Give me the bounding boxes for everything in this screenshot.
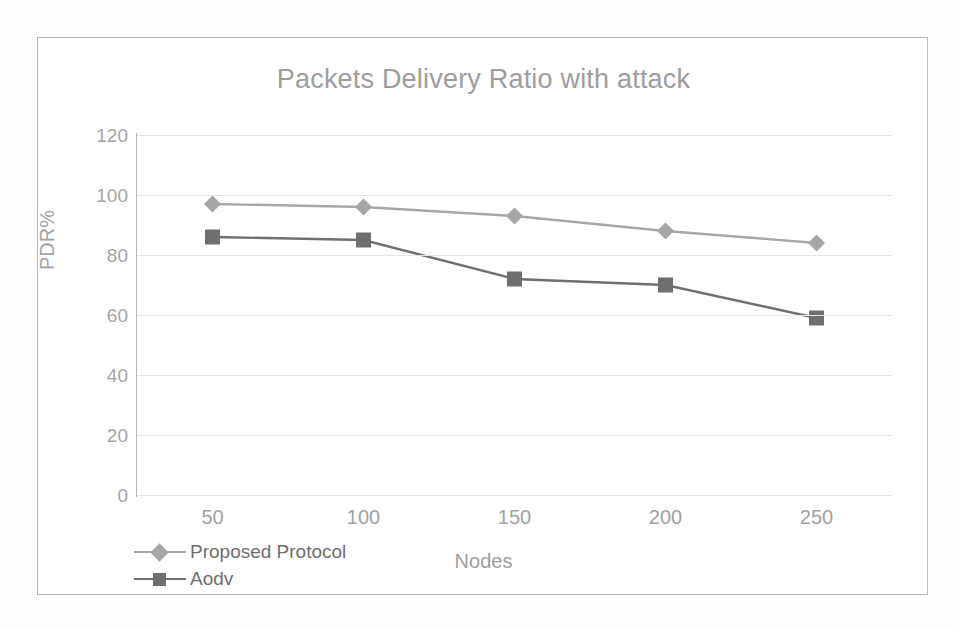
legend-square-marker-icon (134, 570, 186, 588)
data-point-marker (204, 196, 221, 213)
x-axis-tick-labels: 50100150200250 (137, 506, 892, 536)
gridline (137, 375, 892, 376)
data-point-marker (809, 311, 824, 326)
y-axis-tick-label: 100 (76, 186, 128, 205)
y-axis-title: PDR% (36, 210, 59, 270)
chart-title: Packets Delivery Ratio with attack (38, 64, 929, 95)
y-axis-tick-label: 60 (76, 306, 128, 325)
x-axis-tick-label: 250 (777, 506, 857, 529)
data-point-marker (658, 278, 673, 293)
legend-label: Proposed Protocol (186, 541, 346, 563)
data-point-marker (205, 230, 220, 245)
data-point-marker (355, 199, 372, 216)
gridline (137, 135, 892, 136)
y-axis-tick-label: 40 (76, 366, 128, 385)
chart-frame: Packets Delivery Ratio with attack PDR% … (37, 37, 928, 595)
y-axis-tick-label: 80 (76, 246, 128, 265)
legend-diamond-marker-icon (134, 543, 186, 561)
x-axis-tick-label: 100 (324, 506, 404, 529)
gridline (137, 195, 892, 196)
data-point-marker (657, 223, 674, 240)
gridline (137, 495, 892, 496)
x-axis-tick-label: 50 (173, 506, 253, 529)
data-point-marker (507, 272, 522, 287)
plot-area (137, 135, 892, 495)
data-point-marker (506, 208, 523, 225)
legend-item[interactable]: Proposed Protocol (134, 538, 464, 565)
chart-legend: Proposed ProtocolAodv (134, 538, 464, 592)
y-axis-tick-labels: 020406080100120 (68, 135, 128, 495)
legend-label: Aodv (186, 568, 233, 590)
legend-item[interactable]: Aodv (134, 565, 464, 592)
y-axis-tick-label: 0 (76, 486, 128, 505)
x-axis-tick-label: 150 (475, 506, 555, 529)
x-axis-tick-label: 200 (626, 506, 706, 529)
gridline (137, 255, 892, 256)
gridline (137, 315, 892, 316)
y-axis-tick-label: 120 (76, 126, 128, 145)
data-point-marker (356, 233, 371, 248)
y-axis-tick-label: 20 (76, 426, 128, 445)
gridline (137, 435, 892, 436)
data-point-marker (808, 235, 825, 252)
